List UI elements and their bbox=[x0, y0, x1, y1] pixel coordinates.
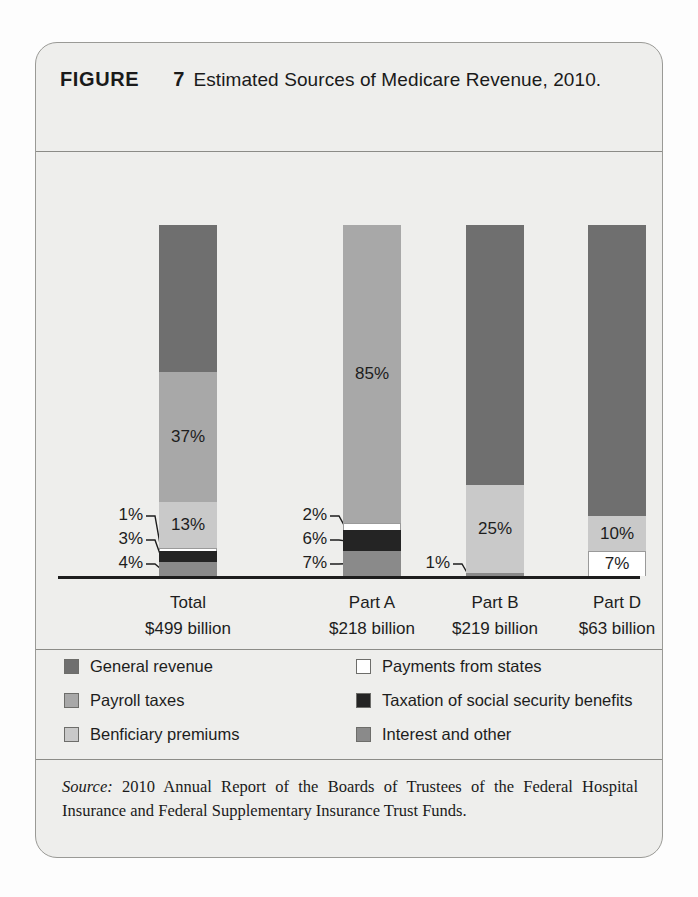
bar-segment-interest-and-other bbox=[466, 573, 524, 577]
segment-callout-label: 7% bbox=[287, 553, 327, 573]
legend-swatch-icon bbox=[356, 693, 371, 708]
bar-segment-interest-and-other bbox=[343, 551, 401, 576]
segment-value-label: 37% bbox=[159, 427, 217, 447]
segment-callout-label: 3% bbox=[103, 529, 143, 549]
category-amount: $63 billion bbox=[536, 616, 662, 642]
legend-label: General revenue bbox=[90, 657, 213, 676]
segment-value-label: 13% bbox=[159, 515, 217, 535]
category-label-total: Total$499 billion bbox=[107, 590, 269, 642]
legend-label: Payroll taxes bbox=[90, 691, 184, 710]
bar-total: 13%37% bbox=[159, 225, 217, 576]
figure-title: Estimated Sources of Medicare Revenue, 2… bbox=[193, 69, 601, 90]
segment-callout-label: 6% bbox=[287, 529, 327, 549]
segment-callout-label: 1% bbox=[410, 553, 450, 573]
chart-plot-area: 13%37%85%25%7%10%1%3%4%2%6%7%1% bbox=[36, 153, 662, 585]
bar-part-d: 7%10% bbox=[588, 225, 646, 576]
bar-segment-taxation-ss-benefits bbox=[343, 530, 401, 551]
segment-value-label: 85% bbox=[343, 364, 401, 384]
legend-item-general-revenue[interactable]: General revenue bbox=[64, 657, 213, 676]
legend-item-payroll-taxes[interactable]: Payroll taxes bbox=[64, 691, 184, 710]
category-name: Part D bbox=[536, 590, 662, 616]
legend-label: Payments from states bbox=[382, 657, 542, 676]
segment-value-label: 10% bbox=[588, 524, 646, 544]
segment-value-label: 7% bbox=[589, 554, 645, 574]
segment-value-label: 25% bbox=[466, 519, 524, 539]
chart-legend: General revenuePayroll taxesBenficiary p… bbox=[36, 655, 662, 759]
bar-segment-interest-and-other bbox=[159, 562, 217, 576]
category-amount: $499 billion bbox=[107, 616, 269, 642]
bar-segment-beneficiary-premiums: 13% bbox=[159, 502, 217, 548]
bar-segment-payments-from-states: 7% bbox=[588, 551, 646, 576]
legend-item-payments-from-states[interactable]: Payments from states bbox=[356, 657, 542, 676]
source-prefix: Source: bbox=[62, 777, 113, 796]
figure-page: FIGURE7Estimated Sources of Medicare Rev… bbox=[0, 0, 698, 897]
figure-card-inner: FIGURE7Estimated Sources of Medicare Rev… bbox=[36, 43, 662, 857]
legend-item-beneficiary-premiums[interactable]: Benficiary premiums bbox=[64, 725, 239, 744]
figure-number: 7 bbox=[173, 68, 184, 90]
chart-baseline-axis bbox=[58, 576, 640, 579]
legend-label: Benficiary premiums bbox=[90, 725, 239, 744]
source-text: 2010 Annual Report of the Boards of Trus… bbox=[62, 777, 638, 820]
legend-divider bbox=[36, 649, 662, 650]
bar-segment-taxation-ss-benefits bbox=[159, 551, 217, 562]
legend-swatch-icon bbox=[64, 659, 79, 674]
legend-item-taxation-ss-benefits[interactable]: Taxation of social security benefits bbox=[356, 691, 632, 710]
bar-segment-beneficiary-premiums: 10% bbox=[588, 516, 646, 551]
legend-swatch-icon bbox=[64, 693, 79, 708]
bar-part-a: 85% bbox=[343, 225, 401, 576]
category-name: Total bbox=[107, 590, 269, 616]
segment-callout-label: 1% bbox=[103, 505, 143, 525]
legend-swatch-icon bbox=[356, 659, 371, 674]
legend-label: Taxation of social security benefits bbox=[382, 691, 632, 710]
figure-card: FIGURE7Estimated Sources of Medicare Rev… bbox=[35, 42, 663, 858]
bar-segment-payroll-taxes: 85% bbox=[343, 225, 401, 523]
figure-title-block: FIGURE7Estimated Sources of Medicare Rev… bbox=[60, 65, 638, 94]
figure-source-note: Source: 2010 Annual Report of the Boards… bbox=[62, 775, 638, 823]
category-label-part-d: Part D$63 billion bbox=[536, 590, 662, 642]
bar-part-b: 25% bbox=[466, 225, 524, 576]
bar-segment-payroll-taxes: 37% bbox=[159, 372, 217, 502]
chart-category-labels: Total$499 billionPart A$218 billionPart … bbox=[36, 590, 662, 648]
title-divider bbox=[36, 151, 662, 152]
bar-segment-general-revenue bbox=[159, 225, 217, 372]
segment-callout-label: 4% bbox=[103, 553, 143, 573]
bar-segment-general-revenue bbox=[588, 225, 646, 516]
segment-callout-label: 2% bbox=[287, 505, 327, 525]
legend-swatch-icon bbox=[64, 727, 79, 742]
bar-segment-beneficiary-premiums: 25% bbox=[466, 485, 524, 573]
legend-label: Interest and other bbox=[382, 725, 511, 744]
bar-segment-general-revenue bbox=[466, 225, 524, 485]
source-divider bbox=[36, 759, 662, 760]
legend-item-interest-and-other[interactable]: Interest and other bbox=[356, 725, 511, 744]
legend-swatch-icon bbox=[356, 727, 371, 742]
bar-segment-payments-from-states bbox=[343, 523, 401, 530]
figure-label: FIGURE bbox=[60, 68, 139, 90]
bar-segment-payments-from-states bbox=[159, 548, 217, 552]
